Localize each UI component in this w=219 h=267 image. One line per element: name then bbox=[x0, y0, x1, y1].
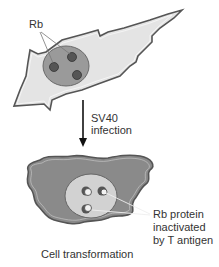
transformed-cell: Rb protein inactivated by T antigen Cell… bbox=[27, 155, 213, 260]
infection-label: infection bbox=[91, 124, 132, 136]
annotation-line-2: inactivated bbox=[153, 221, 206, 233]
rb-granule bbox=[73, 71, 82, 80]
transition-arrow: SV40 infection bbox=[79, 100, 132, 147]
annotation-line-3: by T antigen bbox=[153, 234, 213, 246]
annotation-line-1: Rb protein bbox=[153, 208, 204, 220]
sv40-label: SV40 bbox=[91, 112, 118, 124]
rb-granule bbox=[50, 63, 59, 72]
arrowhead-icon bbox=[79, 138, 87, 147]
rb-label: Rb bbox=[29, 18, 43, 30]
rb-granule bbox=[68, 53, 77, 62]
caption: Cell transformation bbox=[41, 248, 133, 260]
diagram-canvas: Rb SV40 infection Rb protein inactivated… bbox=[0, 0, 219, 267]
normal-cell: Rb bbox=[14, 10, 182, 110]
